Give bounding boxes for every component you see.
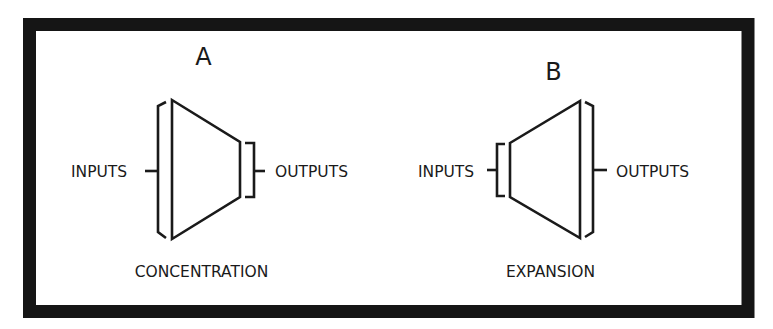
outputs-label-a: OUTPUTS [275, 163, 348, 181]
inputs-label-b: INPUTS [418, 163, 474, 181]
inputs-label-a: INPUTS [71, 163, 127, 181]
input-bracket-a [158, 102, 166, 238]
expander-trapezoid [510, 101, 580, 238]
output-bracket-a [245, 143, 254, 197]
input-bracket-b [497, 144, 505, 196]
panel-letter-b: B [545, 58, 561, 86]
output-bracket-b [585, 102, 593, 237]
concentrator-trapezoid [172, 100, 240, 239]
panel-expansion: B INPUTS OUTPUTS EXPANSION [418, 58, 689, 281]
panel-letter-a: A [195, 43, 212, 71]
caption-expansion: EXPANSION [506, 263, 595, 281]
panel-concentration: A INPUTS OUTPUTS CONCENTRATION [71, 43, 348, 281]
diagram-canvas: A INPUTS OUTPUTS CONCENTRATION B INPUTS … [0, 0, 773, 329]
caption-concentration: CONCENTRATION [135, 263, 269, 281]
outputs-label-b: OUTPUTS [616, 163, 689, 181]
